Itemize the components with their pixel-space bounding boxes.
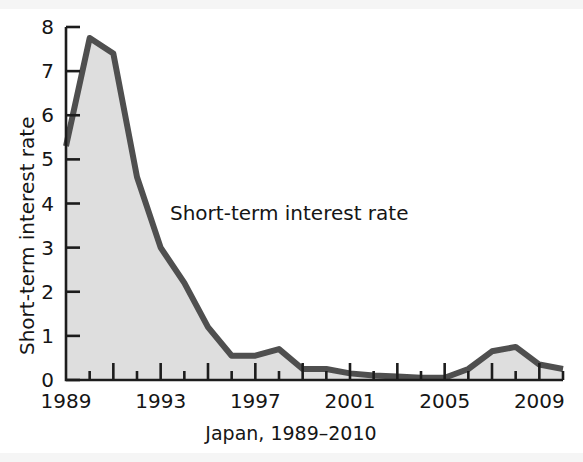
y-tick-labels: 012345678 bbox=[41, 15, 54, 392]
x-tick-marks bbox=[90, 363, 563, 380]
x-tick-label-2005: 2005 bbox=[419, 389, 470, 413]
y-tick-label-4: 4 bbox=[41, 192, 54, 216]
x-tick-label-1989: 1989 bbox=[41, 389, 92, 413]
y-tick-label-3: 3 bbox=[41, 236, 54, 260]
scan-artifact-bottom bbox=[0, 453, 583, 462]
y-tick-label-8: 8 bbox=[41, 15, 54, 39]
x-axis-caption: Japan, 1989–2010 bbox=[204, 422, 376, 444]
x-tick-label-1997: 1997 bbox=[230, 389, 281, 413]
figure-container: 012345678 198919931997200120052009 Short… bbox=[0, 0, 583, 462]
y-tick-label-2: 2 bbox=[41, 280, 54, 304]
scan-artifact-top bbox=[0, 0, 583, 9]
y-tick-label-7: 7 bbox=[41, 59, 54, 83]
x-tick-label-2009: 2009 bbox=[514, 389, 565, 413]
series-annotation-label: Short-term interest rate bbox=[170, 201, 408, 225]
x-tick-labels: 198919931997200120052009 bbox=[41, 389, 565, 413]
y-tick-label-6: 6 bbox=[41, 103, 54, 127]
y-tick-label-1: 1 bbox=[41, 324, 54, 348]
x-tick-label-1993: 1993 bbox=[135, 389, 186, 413]
y-tick-label-5: 5 bbox=[41, 147, 54, 171]
x-tick-label-2001: 2001 bbox=[325, 389, 376, 413]
line-area-chart: 012345678 198919931997200120052009 Short… bbox=[0, 0, 583, 462]
y-axis-title: Short-term interest rate bbox=[15, 117, 39, 355]
